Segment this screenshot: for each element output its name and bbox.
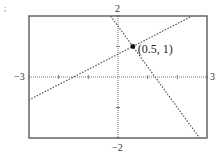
intersection-label: (0.5, 1) bbox=[138, 43, 173, 55]
x-max-label: 3 bbox=[210, 72, 215, 82]
intersection-point bbox=[130, 44, 135, 49]
graph-figure: ; 2 −2 −3 3 (0.5, 1) bbox=[0, 0, 220, 159]
x-min-label: −3 bbox=[14, 72, 25, 82]
y-min-label: −2 bbox=[112, 143, 123, 153]
line-falling bbox=[0, 0, 220, 159]
line-rising bbox=[0, 0, 220, 115]
y-max-label: 2 bbox=[115, 4, 120, 14]
plot-area bbox=[0, 0, 220, 159]
